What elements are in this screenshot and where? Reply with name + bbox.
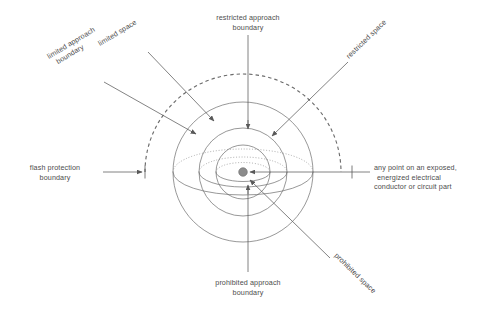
leader-limited-space (148, 52, 214, 121)
label-restricted-approach-boundary-line2: boundary (233, 23, 264, 32)
label-limited-space: limited space (96, 18, 138, 48)
label-energized-conductor-line1: any point on an exposed, (374, 163, 457, 172)
label-energized-conductor-line2: energized electrical (377, 173, 441, 182)
label-prohibited-approach-boundary-line2: boundary (233, 288, 264, 297)
leader-restricted-space (272, 62, 348, 136)
label-prohibited-approach-boundary: prohibited approach boundary (215, 278, 280, 297)
leader-prohibited-space (250, 180, 330, 258)
label-restricted-approach-boundary: restricted approach boundary (216, 13, 279, 32)
approach-boundaries-diagram: limited approach boundary limited space … (0, 0, 497, 312)
label-energized-conductor-line3: conductor or circuit part (374, 182, 452, 191)
label-restricted-space-text: restricted space (344, 18, 388, 61)
label-flash-protection-boundary-line2: boundary (40, 173, 71, 182)
label-energized-conductor-point: any point on an exposed, energized elect… (374, 163, 457, 191)
label-limited-approach-boundary: limited approach boundary (45, 25, 101, 68)
energized-conductor-point (239, 168, 248, 177)
label-restricted-approach-boundary-line1: restricted approach (216, 13, 279, 22)
label-prohibited-approach-boundary-line1: prohibited approach (215, 278, 280, 287)
leader-limited-approach-boundary (104, 82, 196, 134)
label-prohibited-space-text: prohibited space (333, 251, 378, 295)
label-restricted-space: restricted space (344, 18, 388, 61)
diagram-canvas: limited approach boundary limited space … (0, 0, 497, 312)
label-prohibited-space: prohibited space (333, 251, 378, 295)
label-flash-protection-boundary-line1: flash protection (30, 163, 80, 172)
label-flash-protection-boundary: flash protection boundary (30, 163, 80, 182)
label-limited-space-text: limited space (96, 18, 138, 48)
